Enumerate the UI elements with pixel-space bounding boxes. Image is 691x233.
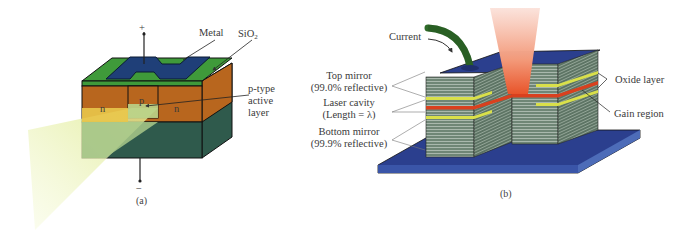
n-region-right-label: n — [174, 103, 179, 115]
figure: + Metal SiO2 p-type active layer n p n −… — [0, 0, 691, 233]
p-type-active-layer-label: p-type active layer — [248, 83, 275, 119]
gain-region-label: Gain region — [614, 108, 664, 120]
current-label: Current — [389, 31, 421, 43]
sio2-label: SiO2 — [238, 28, 258, 43]
metal-label: Metal — [199, 27, 224, 39]
oxide-layer-label: Oxide layer — [615, 74, 664, 86]
n-region-left-label: n — [100, 103, 105, 115]
laser-cavity-label: Laser cavity (Length = λ) — [310, 97, 388, 121]
plus-terminal-label: + — [139, 22, 145, 34]
p-region-label: p — [139, 95, 144, 107]
minus-terminal-label: − — [136, 183, 142, 195]
top-mirror-label: Top mirror (99.0% reflective) — [310, 70, 388, 94]
bottom-mirror-label: Bottom mirror (99.9% reflective) — [310, 126, 388, 150]
caption-a: (a) — [136, 195, 147, 206]
caption-b: (b) — [500, 188, 512, 199]
